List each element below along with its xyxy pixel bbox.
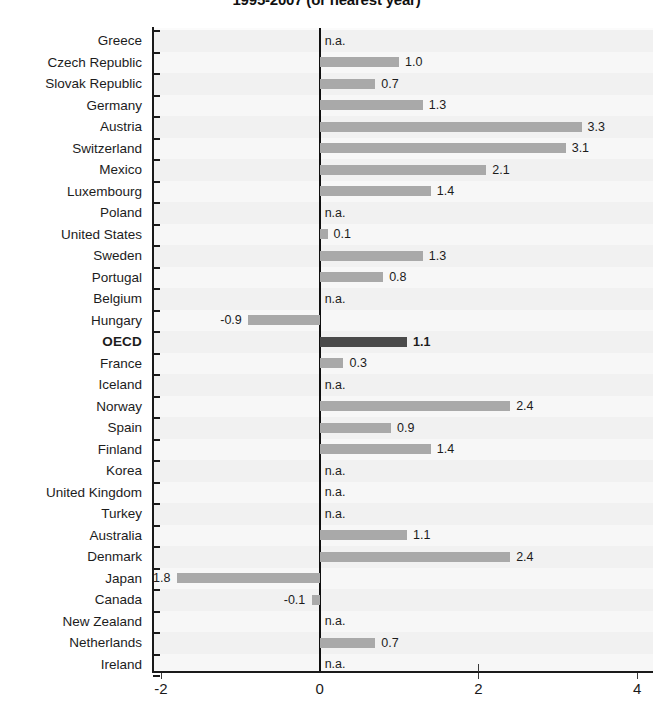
value-label: 3.1 xyxy=(572,142,589,155)
x-axis-tick xyxy=(637,673,638,679)
na-label: n.a. xyxy=(325,615,346,628)
y-axis-tick xyxy=(153,116,160,118)
category-label: OECD xyxy=(0,335,142,349)
y-axis-tick xyxy=(153,439,160,441)
value-label: 1.3 xyxy=(429,99,446,112)
row-band xyxy=(153,589,653,611)
x-axis-tick xyxy=(478,673,479,679)
bar xyxy=(320,401,510,411)
bar xyxy=(320,444,431,454)
category-label: Belgium xyxy=(0,292,142,306)
plot-area: n.a.1.00.71.33.33.12.11.4n.a.0.11.30.8n.… xyxy=(153,28,653,672)
value-label: 2.1 xyxy=(492,164,509,177)
bar xyxy=(320,143,566,153)
bar xyxy=(320,165,487,175)
bar xyxy=(312,595,320,605)
na-label: n.a. xyxy=(325,35,346,48)
bar xyxy=(320,272,383,282)
bar xyxy=(320,229,328,239)
value-label: 1.1 xyxy=(413,336,430,349)
y-axis-tick xyxy=(153,589,160,591)
x-axis-tick-label: 2 xyxy=(458,681,498,696)
value-label: 1.4 xyxy=(437,443,454,456)
y-axis-tick xyxy=(153,202,160,204)
y-axis-tick xyxy=(153,224,160,226)
category-label: Hungary xyxy=(0,314,142,328)
value-label: 0.7 xyxy=(381,637,398,650)
category-label: Austria xyxy=(0,120,142,134)
value-label: 1.3 xyxy=(429,250,446,263)
bar xyxy=(248,315,319,325)
category-label: United States xyxy=(0,228,142,242)
category-label: Germany xyxy=(0,99,142,113)
row-band xyxy=(153,611,653,633)
value-label: 1.1 xyxy=(413,529,430,542)
x-axis-inner-tick xyxy=(478,664,479,672)
category-label: Australia xyxy=(0,529,142,543)
value-label: 3.3 xyxy=(588,121,605,134)
x-axis-tick-label: 0 xyxy=(300,681,340,696)
y-axis-tick xyxy=(153,331,160,333)
x-axis-line xyxy=(152,671,653,673)
bar-chart: 1995-2007 (or nearest year) GreeceCzech … xyxy=(0,0,653,705)
y-axis-line xyxy=(152,27,154,673)
na-label: n.a. xyxy=(325,658,346,671)
category-label: Mexico xyxy=(0,163,142,177)
y-axis-tick xyxy=(153,310,160,312)
y-axis-tick xyxy=(153,417,160,419)
na-label: n.a. xyxy=(325,379,346,392)
value-label: 0.3 xyxy=(349,357,366,370)
bar xyxy=(320,186,431,196)
y-axis-tick xyxy=(153,245,160,247)
row-band xyxy=(153,460,653,482)
y-axis-tick xyxy=(153,654,160,656)
value-label: 0.7 xyxy=(381,78,398,91)
na-label: n.a. xyxy=(325,465,346,478)
y-axis-tick xyxy=(153,611,160,613)
y-axis-tick xyxy=(153,675,160,677)
row-band xyxy=(153,52,653,74)
y-axis-tick xyxy=(153,159,160,161)
bar xyxy=(320,122,582,132)
bar xyxy=(320,638,376,648)
y-axis-tick xyxy=(153,138,160,140)
category-label: Czech Republic xyxy=(0,56,142,70)
row-band xyxy=(153,632,653,654)
value-label: 2.4 xyxy=(516,400,533,413)
category-label: Portugal xyxy=(0,271,142,285)
row-band xyxy=(153,224,653,246)
y-axis-tick xyxy=(153,95,160,97)
y-axis-tick xyxy=(153,632,160,634)
category-label: Ireland xyxy=(0,658,142,672)
category-label: Finland xyxy=(0,443,142,457)
value-label: -0.1 xyxy=(284,594,306,607)
category-label: Norway xyxy=(0,400,142,414)
value-label: 0.8 xyxy=(389,271,406,284)
na-label: n.a. xyxy=(325,486,346,499)
category-label: Iceland xyxy=(0,378,142,392)
bar xyxy=(320,552,510,562)
bar xyxy=(320,423,391,433)
bar xyxy=(320,100,423,110)
y-axis-tick xyxy=(153,267,160,269)
category-label: United Kingdom xyxy=(0,486,142,500)
x-axis-tick-label: 4 xyxy=(617,681,653,696)
row-band xyxy=(153,482,653,504)
row-band xyxy=(153,374,653,396)
y-axis-tick xyxy=(153,482,160,484)
bar xyxy=(320,251,423,261)
na-label: n.a. xyxy=(325,207,346,220)
y-axis-tick xyxy=(153,288,160,290)
y-axis-tick xyxy=(153,374,160,376)
category-label: Japan xyxy=(0,572,142,586)
bar xyxy=(177,573,320,583)
value-label: 1.0 xyxy=(405,56,422,69)
row-band xyxy=(153,353,653,375)
x-axis-tick xyxy=(161,673,162,679)
na-label: n.a. xyxy=(325,293,346,306)
category-label: Denmark xyxy=(0,550,142,564)
category-label: Luxembourg xyxy=(0,185,142,199)
value-label: 0.1 xyxy=(334,228,351,241)
y-axis-tick xyxy=(153,460,160,462)
bar xyxy=(320,530,407,540)
